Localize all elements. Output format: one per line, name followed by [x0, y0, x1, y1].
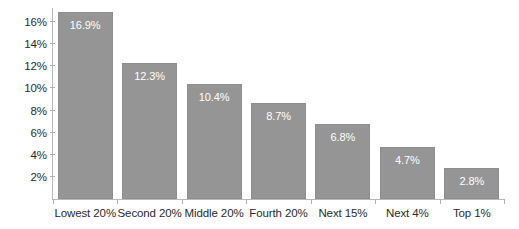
- x-axis-line: [52, 199, 504, 200]
- y-axis-tick-label: 8%: [3, 104, 47, 118]
- y-axis-tick-label: 16%: [3, 15, 47, 29]
- y-axis-tick-mark: [50, 43, 55, 44]
- y-axis-tick-mark: [50, 65, 55, 66]
- bar-value-label: 12.3%: [123, 70, 176, 83]
- bar-value-label: 10.4%: [188, 91, 241, 104]
- x-axis-tick-mark: [246, 199, 247, 204]
- x-axis-category-label: Second 20%: [117, 206, 181, 220]
- y-axis-tick-label: 12%: [3, 59, 47, 73]
- x-axis-tick-mark: [53, 199, 54, 204]
- x-axis-category-label: Next 4%: [375, 206, 439, 220]
- x-axis-tick-mark: [311, 199, 312, 204]
- y-axis-tick-label: 6%: [3, 126, 47, 140]
- y-axis-tick-label: 4%: [3, 148, 47, 162]
- y-axis-tick-label: 2%: [3, 170, 47, 184]
- bar-chart: 2%4%6%8%10%12%14%16% 16.9%12.3%10.4%8.7%…: [0, 0, 519, 229]
- bar-value-label: 4.7%: [381, 154, 434, 167]
- y-axis-tick: 12%: [0, 59, 58, 73]
- x-axis-tick-mark: [504, 199, 505, 204]
- bar: 2.8%: [444, 168, 499, 199]
- y-axis-tick: 4%: [0, 148, 58, 162]
- y-axis-tick-mark: [50, 132, 55, 133]
- y-axis-tick-mark: [50, 176, 55, 177]
- y-axis-tick: 14%: [0, 37, 58, 51]
- bar-value-label: 2.8%: [445, 175, 498, 188]
- x-axis-category-label: Lowest 20%: [53, 206, 117, 220]
- y-axis-tick-mark: [50, 154, 55, 155]
- bar: 8.7%: [251, 103, 306, 199]
- x-axis-tick-mark: [375, 199, 376, 204]
- y-axis-tick-mark: [50, 21, 55, 22]
- bar-value-label: 16.9%: [59, 19, 112, 32]
- bar: 16.9%: [58, 12, 113, 199]
- bar: 4.7%: [380, 147, 435, 199]
- y-axis-tick: 16%: [0, 15, 58, 29]
- bar: 6.8%: [315, 124, 370, 199]
- x-axis-category-label: Fourth 20%: [246, 206, 310, 220]
- bar: 10.4%: [187, 84, 242, 199]
- bar-value-label: 8.7%: [252, 110, 305, 123]
- y-axis-tick: 10%: [0, 81, 58, 95]
- x-axis-tick-mark: [117, 199, 118, 204]
- x-axis-category-label: Top 1%: [440, 206, 504, 220]
- y-axis-tick-mark: [50, 110, 55, 111]
- x-axis-category-label: Next 15%: [311, 206, 375, 220]
- y-axis-tick: 8%: [0, 104, 58, 118]
- y-axis-tick: 2%: [0, 170, 58, 184]
- y-axis-tick-label: 14%: [3, 37, 47, 51]
- y-axis-tick-mark: [50, 87, 55, 88]
- x-axis-tick-mark: [440, 199, 441, 204]
- y-axis-tick: 6%: [0, 126, 58, 140]
- y-axis-tick-label: 10%: [3, 81, 47, 95]
- bar-value-label: 6.8%: [316, 131, 369, 144]
- bar: 12.3%: [122, 63, 177, 199]
- x-axis-category-label: Middle 20%: [182, 206, 246, 220]
- x-axis-tick-mark: [182, 199, 183, 204]
